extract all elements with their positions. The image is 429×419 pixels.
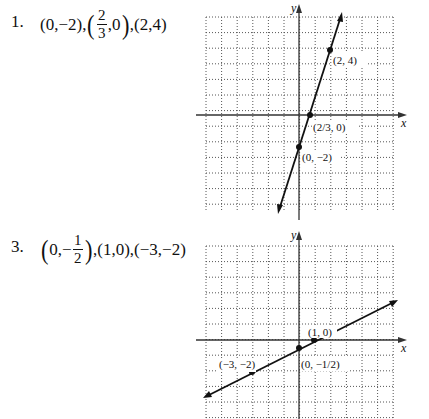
point-label: (−3, −2) xyxy=(219,358,256,371)
left-paren: ( xyxy=(41,236,48,264)
line-arrow-top-icon xyxy=(389,300,398,307)
line-arrow-top-icon xyxy=(337,12,343,22)
y-axis-arrow-icon xyxy=(296,231,302,240)
point-text: (0,−2), xyxy=(40,15,86,35)
point-text: 0,− xyxy=(49,240,71,260)
fraction-numerator: 2 xyxy=(98,8,106,23)
right-paren: ) xyxy=(121,11,128,39)
right-paren: ) xyxy=(85,236,92,264)
left-paren: ( xyxy=(87,11,94,39)
fraction-denominator: 2 xyxy=(74,251,82,266)
point-text: ,0 xyxy=(108,15,121,35)
point-text: ,(2,4) xyxy=(130,15,167,35)
point-label: (2, 4) xyxy=(333,54,357,67)
line-arrow-bottom-icon xyxy=(277,204,283,214)
graph-3: x y (1, 0) (0, −1/2) (−3, −2) xyxy=(190,220,429,419)
fraction: 2 3 xyxy=(97,8,107,41)
point-2-4 xyxy=(327,47,333,53)
point-label: (1, 0) xyxy=(308,326,332,339)
point-label: (0, −1/2) xyxy=(301,358,340,371)
point-label: (2/3, 0) xyxy=(313,121,346,134)
problem-points: ( 0,− 1 2 ) ,(1,0),(−3,−2) xyxy=(40,233,186,266)
problem-points: (0,−2), ( 2 3 ,0 ) ,(2,4) xyxy=(40,8,167,41)
fraction-denominator: 3 xyxy=(98,26,106,41)
graph-1: x y (2, 4) (2/3, 0) (0, −2) xyxy=(190,0,429,222)
fraction-numerator: 1 xyxy=(74,233,82,248)
problem-number: 3. xyxy=(11,237,24,257)
point-0-neg2 xyxy=(296,144,302,150)
problem-number: 1. xyxy=(11,12,24,32)
x-axis-label: x xyxy=(400,116,407,130)
point-2-3-0 xyxy=(307,112,313,118)
point-0-neg-half xyxy=(296,345,302,351)
point-label: (0, −2) xyxy=(302,151,332,164)
line-arrow-bottom-icon xyxy=(203,391,212,398)
x-axis-label: x xyxy=(400,341,407,355)
fraction: 1 2 xyxy=(73,233,83,266)
y-axis-label: y xyxy=(290,228,297,242)
y-axis-arrow-icon xyxy=(296,4,302,13)
y-axis-label: y xyxy=(290,1,297,15)
point-text: ,(1,0),(−3,−2) xyxy=(93,240,186,260)
